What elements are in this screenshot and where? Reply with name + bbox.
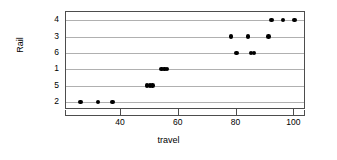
x-axis-tick	[236, 109, 237, 115]
gridline-row-6	[66, 53, 304, 54]
data-point	[165, 67, 170, 72]
y-axis-tick-label: 1	[54, 64, 59, 73]
data-point	[234, 51, 239, 56]
data-point	[292, 18, 297, 23]
data-point	[266, 34, 271, 39]
data-point	[281, 18, 286, 23]
data-point	[229, 34, 234, 39]
data-point	[110, 100, 115, 105]
gridline-row-2	[66, 102, 304, 103]
y-axis-tick-label: 6	[54, 48, 59, 57]
y-axis-tick-label: 5	[54, 80, 59, 89]
y-axis-title: Rail	[15, 15, 25, 75]
plot-area	[66, 12, 304, 108]
gridline-row-1	[66, 69, 304, 70]
plot-panel	[65, 11, 305, 109]
x-axis-tick-label: 40	[115, 118, 124, 127]
x-axis-tick	[293, 109, 294, 115]
y-axis-tick-label: 2	[54, 97, 59, 106]
x-axis-tick	[178, 109, 179, 115]
data-point	[269, 18, 274, 23]
data-point	[246, 34, 251, 39]
x-axis-line	[65, 115, 305, 116]
x-axis: 406080100	[65, 109, 305, 135]
data-point	[96, 100, 101, 105]
x-axis-title: travel	[0, 135, 337, 145]
x-axis-tick-label: 60	[173, 118, 182, 127]
y-axis-tick-label: 4	[54, 15, 59, 24]
chart-figure: Rail 436152 406080100 travel	[0, 0, 337, 160]
y-axis-tick-label: 3	[54, 31, 59, 40]
x-axis-tick	[120, 109, 121, 115]
gridline-row-5	[66, 86, 304, 87]
x-axis-tick-label: 100	[286, 118, 300, 127]
y-axis-tick-labels: 436152	[45, 11, 59, 109]
data-point	[252, 51, 257, 56]
data-point	[78, 100, 83, 105]
x-axis-tick-label: 80	[231, 118, 240, 127]
data-point	[150, 83, 155, 88]
